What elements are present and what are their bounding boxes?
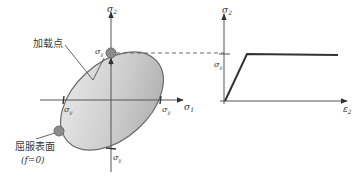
- stress-strain-curve: [225, 54, 338, 101]
- yield-label-right-plot: σy: [214, 60, 222, 71]
- sigma1-axis-label: σ1: [184, 102, 194, 113]
- left-plot: σ2 σ1 σy σy σy σy 加载点 屈服表面 (f=0): [15, 4, 224, 172]
- tick-left-yield: [63, 96, 64, 104]
- right-plot: σ2 σy ε2: [214, 5, 352, 115]
- yield-label-top: σy: [95, 47, 103, 58]
- sigma2-axis-label: σ2: [107, 4, 117, 15]
- loading-point-marker: [106, 48, 116, 58]
- epsilon2-axis-label: ε2: [343, 104, 352, 115]
- loading-point-label: 加载点: [33, 38, 63, 49]
- yield-surface-label: 屈服表面: [15, 140, 55, 152]
- yield-label-right: σy: [162, 105, 170, 116]
- yield-surface-point-marker: [54, 126, 64, 136]
- tick-right-yield: [160, 96, 161, 104]
- yield-surface-leader: [36, 133, 55, 139]
- yield-surface-diagram: σ2 σ1 σy σy σy σy 加载点 屈服表面 (f=0) σ2 σy: [0, 0, 363, 184]
- yield-label-bottom: σy: [113, 153, 121, 164]
- sigma2-axis-label-right: σ2: [222, 5, 232, 16]
- yield-surface-condition: (f=0): [21, 155, 45, 165]
- tick-bottom-yield: [106, 148, 116, 149]
